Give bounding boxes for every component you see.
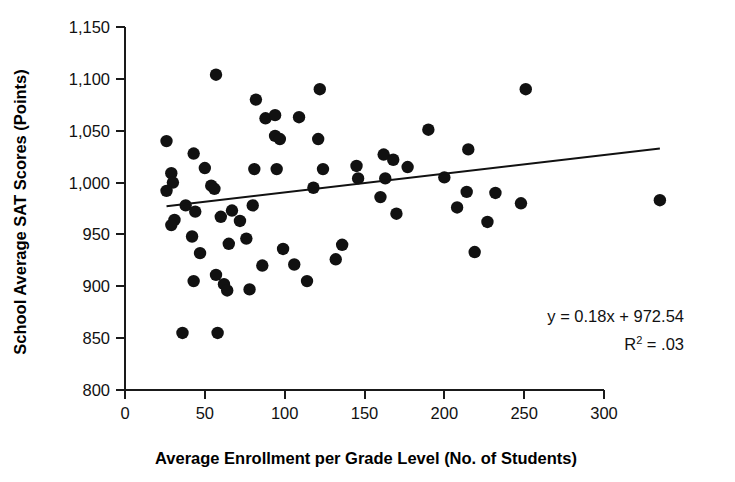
y-tick-label: 1,100 [69,70,110,88]
data-point [187,147,199,159]
y-tick-label: 950 [82,225,110,243]
data-point [374,191,386,203]
x-axis-ticks: 050100150200250300 [120,390,617,422]
data-point [293,111,305,123]
y-tick-label: 850 [82,329,110,347]
chart-canvas: 8008509009501,0001,0501,1001,150 0501001… [0,0,735,482]
data-point [226,204,238,216]
data-point [256,259,268,271]
data-point [520,83,532,95]
data-point [451,201,463,213]
data-point [288,258,300,270]
data-point [350,160,362,172]
data-point [336,239,348,251]
y-tick-label: 800 [82,381,110,399]
y-axis-title: School Average SAT Scores (Points) [11,69,29,354]
scatter-chart: 8008509009501,0001,0501,1001,150 0501001… [0,0,735,482]
y-tick-label: 1,150 [69,18,110,36]
data-points [160,69,666,340]
data-point [468,246,480,258]
data-point [247,199,259,211]
data-point [187,275,199,287]
x-axis-title: Average Enrollment per Grade Level (No. … [155,449,577,467]
x-tick-label: 200 [431,404,459,422]
data-point [234,215,246,227]
data-point [379,172,391,184]
data-point [462,143,474,155]
data-point [248,163,260,175]
y-tick-label: 900 [82,277,110,295]
data-point [210,69,222,81]
data-point [176,327,188,339]
data-point [317,163,329,175]
x-tick-label: 100 [271,404,299,422]
data-point [243,283,255,295]
data-point [269,109,281,121]
x-tick-label: 300 [590,404,618,422]
y-tick-label: 1,000 [69,174,110,192]
data-point [460,186,472,198]
data-point [387,154,399,166]
data-point [277,243,289,255]
data-point [401,161,413,173]
data-point [194,247,206,259]
data-point [422,123,434,135]
x-tick-label: 50 [196,404,214,422]
data-point [160,185,172,197]
data-point [189,205,201,217]
data-point [654,194,666,206]
r-value: = .03 [642,335,684,353]
data-point [199,162,211,174]
data-point [221,284,233,296]
trendline-equation: y = 0.18x + 972.54 [547,307,684,325]
y-axis-ticks: 8008509009501,0001,0501,1001,150 [69,18,125,399]
y-tick-label: 1,050 [69,122,110,140]
data-point [314,83,326,95]
data-point [223,238,235,250]
r-squared-label: R2 = .03 [624,334,684,353]
trend-line [167,149,660,207]
data-point [270,163,282,175]
data-point [515,197,527,209]
data-point [165,219,177,231]
data-point [250,93,262,105]
data-point [208,183,220,195]
data-point [301,275,313,287]
data-point [215,211,227,223]
data-point [211,327,223,339]
r-symbol: R [624,335,636,353]
data-point [330,253,342,265]
data-point [240,232,252,244]
data-point [186,230,198,242]
x-tick-label: 150 [351,404,379,422]
data-point [312,133,324,145]
data-point [160,135,172,147]
data-point [274,133,286,145]
data-point [481,216,493,228]
data-point [390,207,402,219]
data-point [489,187,501,199]
x-tick-label: 0 [120,404,129,422]
x-tick-label: 250 [510,404,538,422]
